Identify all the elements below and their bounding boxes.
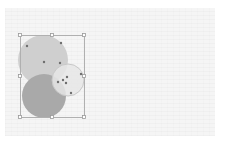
- control-point[interactable]: [62, 79, 64, 81]
- resize-handle-top-right[interactable]: [83, 34, 86, 37]
- resize-handle-middle-left[interactable]: [19, 75, 22, 78]
- resize-handle-bottom-center[interactable]: [51, 116, 54, 119]
- control-point[interactable]: [60, 42, 62, 44]
- resize-handle-bottom-left[interactable]: [19, 116, 22, 119]
- shape-layer: [0, 0, 226, 152]
- control-point[interactable]: [80, 73, 82, 75]
- control-point[interactable]: [43, 61, 45, 63]
- control-point[interactable]: [70, 92, 72, 94]
- resize-handle-top-center[interactable]: [51, 34, 54, 37]
- resize-handle-top-left[interactable]: [19, 34, 22, 37]
- control-point[interactable]: [26, 45, 28, 47]
- control-point[interactable]: [66, 76, 68, 78]
- control-point[interactable]: [57, 81, 59, 83]
- control-point[interactable]: [65, 82, 67, 84]
- control-point[interactable]: [59, 62, 61, 64]
- resize-handle-middle-right[interactable]: [83, 75, 86, 78]
- resize-handle-bottom-right[interactable]: [83, 116, 86, 119]
- circle-right[interactable]: [52, 64, 84, 96]
